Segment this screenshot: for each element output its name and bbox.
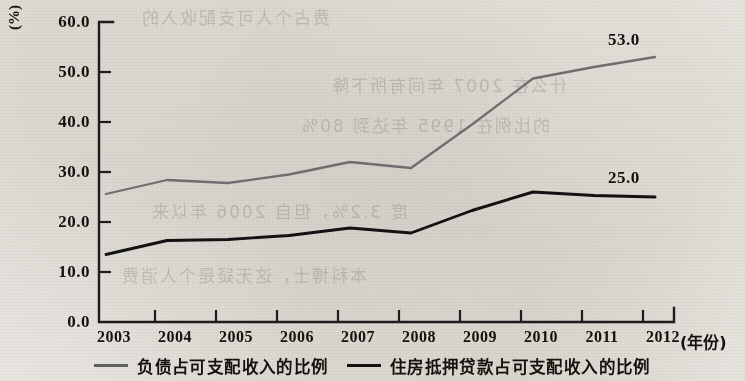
x-tick-label: 2004 [143, 328, 207, 346]
axis-lines [99, 22, 674, 322]
x-tick-label: 2005 [204, 328, 268, 346]
x-tick-label: 2006 [265, 328, 329, 346]
data-label-mortgage: 25.0 [608, 168, 640, 188]
legend-item-debt[interactable]: 负债占可支配收入的比例 [94, 354, 328, 378]
legend-label: 住房抵押贷款占可支配收入的比例 [390, 354, 651, 378]
x-tick-label: 2009 [448, 328, 512, 346]
x-tick-label: 2010 [509, 328, 573, 346]
legend-item-mortgage[interactable]: 住房抵押贷款占可支配收入的比例 [347, 354, 651, 378]
x-tick-label: 2011 [570, 328, 634, 346]
series-line-mortgage [106, 192, 655, 255]
x-tick-label: 2003 [82, 328, 146, 346]
legend-swatch-line-icon [347, 364, 381, 367]
series-line-debt [106, 57, 655, 194]
data-label-debt: 53.0 [608, 30, 640, 50]
legend-label: 负债占可支配收入的比例 [137, 354, 328, 378]
x-tick-label: 2007 [326, 328, 390, 346]
plot-area [0, 0, 745, 381]
legend-swatch-line-icon [94, 364, 128, 367]
chart-legend: 负债占可支配收入的比例 住房抵押贷款占可支配收入的比例 [0, 350, 745, 381]
x-tick-label: 2008 [387, 328, 451, 346]
line-chart: (%) 60.0 50.0 40.0 30.0 20.0 10.0 0.0 53… [0, 0, 745, 381]
